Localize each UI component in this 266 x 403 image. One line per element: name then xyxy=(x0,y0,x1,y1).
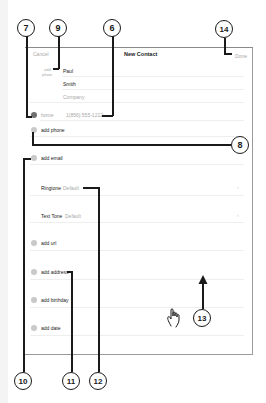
cancel-button[interactable]: Cancel xyxy=(33,51,49,57)
callout-11-leader xyxy=(71,271,73,372)
chevron-right-icon: › xyxy=(237,184,239,190)
add-url-button[interactable]: add url xyxy=(41,240,56,246)
callout-14: 14 xyxy=(215,20,233,38)
callout-14-leader xyxy=(224,38,226,54)
callout-10-leader xyxy=(23,158,31,160)
text-tone-value[interactable]: Default xyxy=(65,213,81,219)
callout-9-leader xyxy=(53,68,59,70)
callout-9: 9 xyxy=(49,19,67,37)
add-date-button[interactable]: add date xyxy=(41,325,60,331)
callout-8-leader xyxy=(32,144,231,146)
first-name-field[interactable]: Paul xyxy=(63,68,73,74)
add-date-icon[interactable] xyxy=(31,325,37,331)
divider xyxy=(30,195,244,196)
callout-14-leader xyxy=(224,53,232,55)
ringtone-value[interactable]: Default xyxy=(63,185,79,191)
callout-6: 6 xyxy=(103,19,121,37)
hand-swipe-icon xyxy=(165,306,185,328)
callout-10-leader xyxy=(23,158,25,372)
phone-number-field[interactable]: 1(856) 555-1212 xyxy=(66,112,103,118)
divider xyxy=(62,89,244,90)
add-phone-button[interactable]: add phone xyxy=(41,127,65,133)
new-contact-sheet xyxy=(25,47,253,355)
add-email-button[interactable]: add email xyxy=(41,155,63,161)
add-url-icon[interactable] xyxy=(31,240,37,246)
callout-12-leader xyxy=(98,187,100,372)
phone-label-selector[interactable]: home xyxy=(41,112,54,118)
divider xyxy=(30,164,244,165)
callout-13: 13 xyxy=(193,309,211,327)
divider xyxy=(30,136,244,137)
callout-6-leader xyxy=(102,115,113,117)
callout-6-leader xyxy=(112,36,114,116)
callout-7: 7 xyxy=(17,19,35,37)
add-address-icon[interactable] xyxy=(31,269,37,275)
divider xyxy=(62,76,244,77)
divider xyxy=(40,120,244,121)
callout-10: 10 xyxy=(14,372,32,390)
last-name-field[interactable]: Smith xyxy=(63,81,76,87)
callout-13-leader xyxy=(202,282,204,309)
add-birthday-icon[interactable] xyxy=(31,297,37,303)
callout-11: 11 xyxy=(62,372,80,390)
page-margin xyxy=(0,0,8,403)
divider xyxy=(30,102,244,103)
ringtone-label[interactable]: Ringtone xyxy=(41,185,61,191)
callout-7-leader xyxy=(26,116,32,118)
arrow-up-icon xyxy=(198,275,208,285)
divider xyxy=(30,335,244,336)
callout-8: 8 xyxy=(231,136,249,154)
add-email-icon[interactable] xyxy=(31,155,37,161)
text-tone-label[interactable]: Text Tone xyxy=(41,213,62,219)
callout-7-leader xyxy=(26,36,28,117)
company-field[interactable]: Company xyxy=(63,94,84,100)
add-photo-label-2: photo xyxy=(42,72,52,77)
page-title: New Contact xyxy=(124,51,157,57)
divider xyxy=(30,250,244,251)
callout-12: 12 xyxy=(89,372,107,390)
chevron-right-icon: › xyxy=(237,212,239,218)
callout-9-leader xyxy=(58,36,60,69)
divider xyxy=(30,279,244,280)
divider xyxy=(30,222,244,223)
divider xyxy=(30,307,244,308)
add-birthday-button[interactable]: add birthday xyxy=(41,297,69,303)
add-address-button[interactable]: add address xyxy=(41,269,69,275)
done-button[interactable]: Done xyxy=(235,53,247,59)
callout-12-leader xyxy=(83,187,99,189)
